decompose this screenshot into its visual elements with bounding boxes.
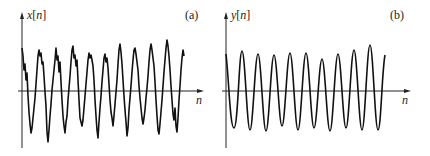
panel-b-ylabel-index: n xyxy=(240,8,246,22)
panel-a-tag: (a) xyxy=(185,8,198,23)
figure-canvas xyxy=(0,0,430,156)
panel-a-ylabel: x[n] xyxy=(27,8,46,23)
panel-a-ylabel-var: x xyxy=(27,8,32,22)
panel-b-ylabel-var: y xyxy=(231,8,236,22)
panel-b-y-arrow-icon xyxy=(224,12,228,19)
panel-a-y-arrow-icon xyxy=(20,12,24,19)
panel-b-tag: (b) xyxy=(390,8,404,23)
panel-a-xlabel: n xyxy=(196,93,202,108)
panel-b-ylabel: y[n] xyxy=(231,8,250,23)
panel-a-ylabel-index: n xyxy=(36,8,42,22)
panel-b-signal-line xyxy=(226,45,385,131)
panel-b-xlabel: n xyxy=(402,93,408,108)
